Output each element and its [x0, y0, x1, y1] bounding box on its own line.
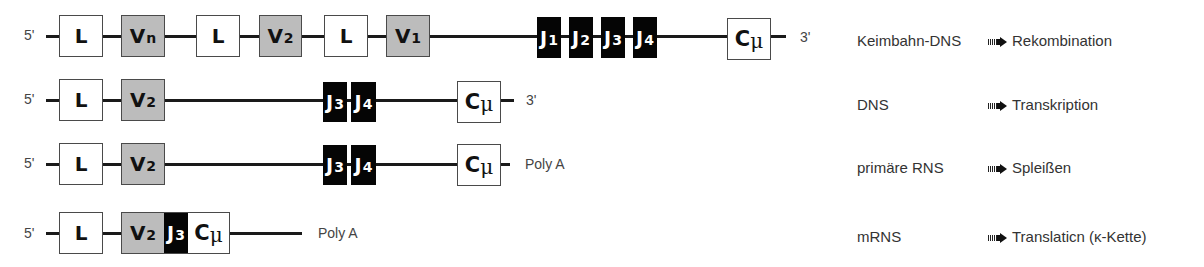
striped-arrow-icon: [988, 233, 1007, 243]
stage-label: Keimbahn-DNS: [857, 32, 961, 49]
spliced-vjc-exon: V2 J3 Cμ: [121, 212, 230, 254]
constant-mu-segment: Cμ: [188, 213, 229, 253]
v-segment-n: Vn: [121, 15, 165, 57]
process-label: Transkription: [1012, 96, 1098, 113]
j-segment-4: J4: [633, 17, 657, 58]
three-prime-label: 3': [526, 92, 536, 108]
leader-exon: L: [59, 79, 103, 121]
five-prime-label: 5': [24, 225, 34, 241]
striped-arrow-icon: [988, 101, 1007, 111]
j-segment-4: J4: [351, 82, 376, 122]
v-segment-1: V1: [386, 15, 430, 57]
poly-a-tail-label: Poly A: [318, 225, 358, 241]
process-label: Spleißen: [1012, 159, 1071, 176]
rna-strand-line: [46, 163, 510, 166]
leader-exon: L: [59, 143, 103, 185]
leader-exon: L: [196, 15, 240, 57]
v-segment-2: V2: [121, 143, 165, 185]
five-prime-label: 5': [24, 91, 34, 107]
constant-mu-segment: Cμ: [457, 144, 501, 186]
constant-mu-segment: Cμ: [727, 18, 771, 60]
striped-arrow-icon: [988, 164, 1007, 174]
process-label: Translaticn (κ-Kette): [1012, 228, 1146, 245]
poly-a-tail-label: Poly A: [525, 156, 565, 172]
v-segment-2: V2: [121, 79, 165, 121]
process-label: Rekombination: [1012, 32, 1112, 49]
j-segment-4: J4: [351, 145, 376, 185]
three-prime-label: 3': [800, 29, 810, 45]
j-segment-2: J2: [569, 17, 593, 58]
j-segment-3: J3: [323, 82, 347, 122]
stage-label: primäre RNS: [857, 159, 944, 176]
striped-arrow-icon: [988, 37, 1007, 47]
j-segment-3: J3: [323, 145, 347, 185]
five-prime-label: 5': [24, 27, 34, 43]
leader-exon: L: [59, 212, 103, 254]
v-segment-2: V2: [259, 15, 302, 57]
j-segment-3: J3: [164, 213, 188, 253]
j-segment-3: J3: [601, 17, 625, 58]
stage-label: DNS: [857, 96, 889, 113]
j-segment-1: J1: [537, 17, 561, 58]
leader-exon: L: [59, 15, 103, 57]
constant-mu-segment: Cμ: [457, 81, 501, 123]
five-prime-label: 5': [24, 155, 34, 171]
leader-exon: L: [324, 15, 368, 57]
stage-label: mRNS: [857, 228, 901, 245]
dna-strand-line: [46, 99, 514, 102]
v-segment-2: V2: [122, 213, 164, 253]
